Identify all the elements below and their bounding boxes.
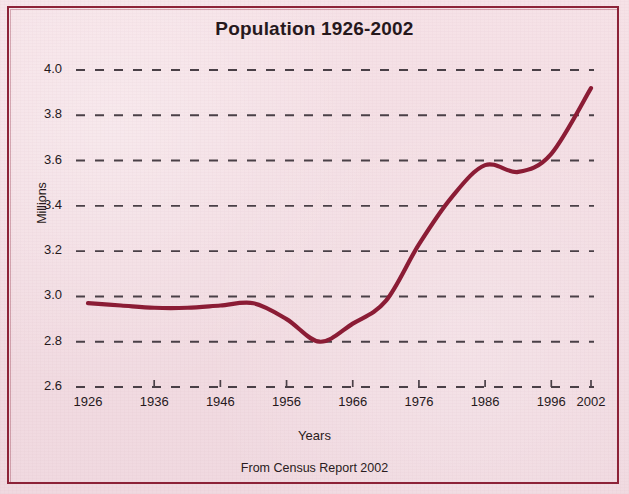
data-line-population bbox=[88, 88, 591, 342]
y-tick-label-2.6: 2.6 bbox=[20, 378, 62, 393]
x-tick-label-1956: 1956 bbox=[259, 394, 315, 409]
x-tick-label-1986: 1986 bbox=[457, 394, 513, 409]
source-note: From Census Report 2002 bbox=[0, 461, 629, 475]
plot-area bbox=[0, 0, 629, 494]
y-tick-label-2.8: 2.8 bbox=[20, 333, 62, 348]
x-tick-label-1936: 1936 bbox=[126, 394, 182, 409]
x-axis-title: Years bbox=[0, 428, 629, 443]
y-tick-label-3.0: 3.0 bbox=[20, 287, 62, 302]
x-tick-label-2002: 2002 bbox=[563, 394, 619, 409]
x-tick-label-1946: 1946 bbox=[192, 394, 248, 409]
x-tick-label-1926: 1926 bbox=[60, 394, 116, 409]
data-line-group bbox=[88, 88, 591, 342]
y-tick-label-3.8: 3.8 bbox=[20, 106, 62, 121]
y-tick-label-3.4: 3.4 bbox=[20, 197, 62, 212]
x-tick-label-1966: 1966 bbox=[325, 394, 381, 409]
y-tick-label-3.6: 3.6 bbox=[20, 152, 62, 167]
x-tick-marks-group bbox=[154, 380, 591, 387]
y-tick-label-3.2: 3.2 bbox=[20, 242, 62, 257]
y-tick-label-4.0: 4.0 bbox=[20, 61, 62, 76]
x-tick-label-1976: 1976 bbox=[391, 394, 447, 409]
chart-figure: Population 1926-2002 Millions 4.03.83.63… bbox=[0, 0, 629, 494]
gridlines-group bbox=[76, 70, 594, 387]
